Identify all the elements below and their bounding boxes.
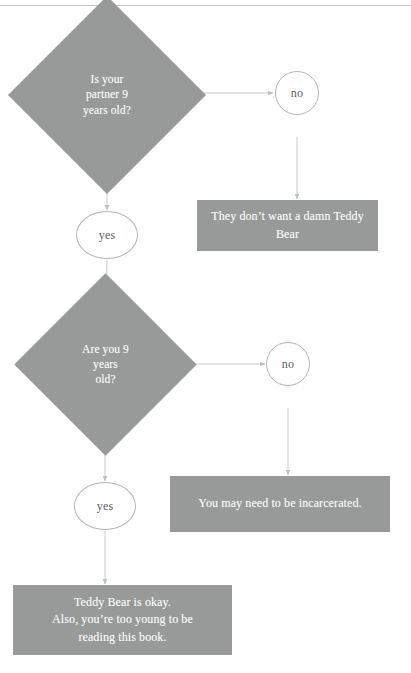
outcome-text: Teddy Bear is okay. Also, you’re too you… (52, 594, 193, 645)
decision-node-your-age[interactable]: Are you 9 years old? (41, 300, 170, 429)
decision-node-label: Is your partner 9 years old? (83, 72, 131, 118)
branch-label: yes (97, 499, 114, 514)
branch-label: yes (99, 228, 116, 243)
outcome-box-incarcerated[interactable]: You may need to be incarcerated. (170, 476, 390, 532)
outcome-box-no-teddy-bear[interactable]: They don’t want a damn Teddy Bear (197, 200, 378, 251)
outcome-box-teddy-bear-okay[interactable]: Teddy Bear is okay. Also, you’re too you… (13, 585, 232, 655)
decision-node-partner-age[interactable]: Is your partner 9 years old? (37, 25, 177, 165)
outcome-text: You may need to be incarcerated. (198, 495, 361, 512)
branch-label: no (291, 86, 303, 101)
branch-no-1[interactable]: no (275, 71, 319, 115)
branch-no-2[interactable]: no (266, 342, 310, 386)
branch-yes-2[interactable]: yes (74, 482, 136, 530)
decision-node-label: Are you 9 years old? (82, 342, 129, 388)
branch-label: no (282, 357, 294, 372)
branch-yes-1[interactable]: yes (76, 211, 138, 259)
outcome-text: They don’t want a damn Teddy Bear (211, 208, 363, 242)
flowchart-canvas: Is your partner 9 years old? no yes They… (0, 0, 411, 673)
page-header-rule (0, 5, 411, 6)
